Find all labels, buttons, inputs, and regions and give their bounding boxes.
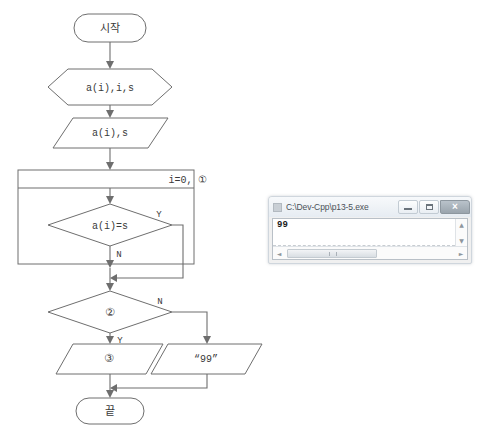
console-window[interactable]: C:\Dev-Cpp\p13-5.exe × 99 ▲ ▼ ◄ ► xyxy=(268,196,472,264)
node-read-label: a(i),s xyxy=(92,128,128,139)
horizontal-scroll-thumb[interactable] xyxy=(287,249,377,258)
vertical-scrollbar[interactable]: ▲ ▼ xyxy=(455,219,467,246)
node-end-label: 끝 xyxy=(105,405,115,418)
maximize-icon xyxy=(426,204,433,210)
arrowhead xyxy=(106,110,114,118)
node-decision-compare-label: a(i)=s xyxy=(92,221,128,232)
maximize-button[interactable] xyxy=(419,200,439,214)
branch-label-two-no: N xyxy=(157,297,162,307)
node-input-hexagon-label: a(i),i,s xyxy=(86,83,134,94)
console-client-area: 99 ▲ ▼ ◄ ► xyxy=(272,218,468,260)
scroll-up-arrow-icon[interactable]: ▲ xyxy=(456,219,467,230)
flowchart-diagram: 시작 a(i),i,s a(i),s i=0, ① a(i)=s Y xyxy=(0,0,270,445)
minimize-button[interactable] xyxy=(398,200,418,214)
connector-two-no xyxy=(172,312,207,337)
branch-label-compare-yes: Y xyxy=(156,210,162,220)
arrowhead xyxy=(106,61,114,69)
merge-arrowhead xyxy=(110,274,117,282)
minimize-icon xyxy=(404,208,412,210)
console-titlebar[interactable]: C:\Dev-Cpp\p13-5.exe × xyxy=(269,197,471,217)
scroll-right-arrow-icon[interactable]: ► xyxy=(455,247,467,259)
node-output-three-label: ③ xyxy=(104,352,114,365)
node-output-99-label: “99” xyxy=(194,354,218,365)
node-decision-two-label: ② xyxy=(105,306,115,319)
scroll-down-arrow-icon[interactable]: ▼ xyxy=(456,235,467,246)
arrowhead xyxy=(106,336,114,344)
arrowhead xyxy=(106,390,114,398)
close-icon: × xyxy=(441,201,469,213)
arrowhead xyxy=(106,162,114,170)
console-title-text: C:\Dev-Cpp\p13-5.exe xyxy=(286,202,397,212)
branch-label-compare-no: N xyxy=(116,250,121,260)
arrowhead xyxy=(106,283,114,291)
close-button[interactable]: × xyxy=(440,200,470,214)
console-text-row: 99 ▲ ▼ xyxy=(273,219,467,246)
scroll-left-arrow-icon[interactable]: ◄ xyxy=(273,247,285,259)
node-start-label: 시작 xyxy=(100,22,120,35)
horizontal-scrollbar[interactable]: ◄ ► xyxy=(273,246,467,259)
console-app-icon xyxy=(273,203,282,212)
node-loop-header-label: i=0, ① xyxy=(168,175,207,186)
window-controls: × xyxy=(397,200,470,214)
connector-output-99-down xyxy=(116,374,207,388)
console-output-text: 99 xyxy=(273,219,455,246)
arrowhead xyxy=(203,336,211,344)
